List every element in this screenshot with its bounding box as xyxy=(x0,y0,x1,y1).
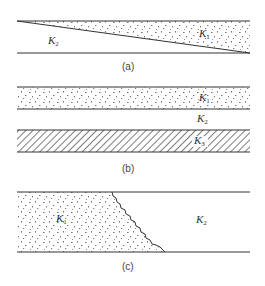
label-k2: K2 xyxy=(195,213,207,227)
label-k2: K2 xyxy=(47,34,59,48)
panel-c: K1 K2 (c) xyxy=(17,192,250,272)
panel-b: K1 K2 K3 (b) xyxy=(17,87,250,174)
caption-b: (b) xyxy=(122,163,134,174)
panel-a: K2 K1 (a) xyxy=(17,21,250,72)
label-k2: K2 xyxy=(196,112,208,126)
k1-dotted-region xyxy=(17,192,165,252)
figure-diagram: K2 K1 (a) K1 K2 K3 (b) K1 K2 (c) xyxy=(0,0,265,286)
k1-dotted-band xyxy=(17,87,250,109)
caption-a: (a) xyxy=(122,61,134,72)
caption-c: (c) xyxy=(122,261,134,272)
k3-hatched-band xyxy=(17,130,250,152)
